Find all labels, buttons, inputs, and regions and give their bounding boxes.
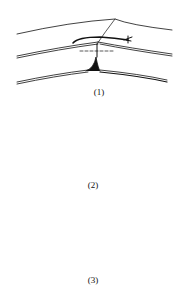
panel-1-label: (1) [84, 87, 114, 97]
panel-2-label: (2) [78, 180, 108, 190]
panel-1-drawing [17, 19, 172, 84]
panel-3-label: (3) [78, 275, 108, 285]
diagram-canvas [0, 0, 187, 304]
